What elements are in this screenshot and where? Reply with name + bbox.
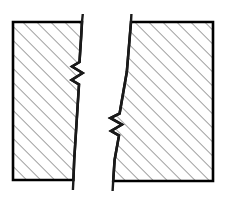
- drawing-canvas: [0, 0, 228, 199]
- section-drawing-svg: [0, 0, 228, 199]
